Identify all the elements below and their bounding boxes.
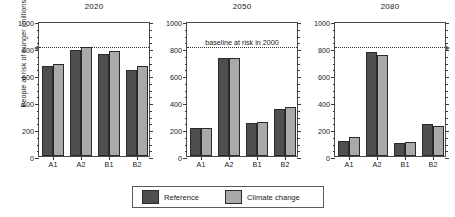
y-tick-label: 400 — [22, 100, 34, 109]
x-tick-label-B2: B2 — [123, 160, 151, 169]
chart-legend: Reference Climate change — [132, 186, 324, 208]
legend-label-climate-change: Climate change — [247, 193, 300, 202]
bar-group-B2 — [271, 23, 299, 156]
legend-swatch-reference — [142, 190, 159, 204]
y-tick-label: 800 — [318, 46, 330, 55]
bar-A1-climate-change — [53, 64, 64, 156]
bar-A2-reference — [70, 50, 81, 156]
bar-B1-reference — [246, 123, 257, 156]
x-tick-label-B2: B2 — [271, 160, 299, 169]
x-tick-label-A2: A2 — [67, 160, 95, 169]
bar-B1-reference — [394, 143, 405, 156]
bar-A1-reference — [42, 66, 53, 156]
chart-figure: People at risk of hunger (millions) 2020… — [0, 0, 455, 217]
y-tick-label: 1000 — [166, 19, 182, 28]
chart-panel-2080: 208002004006008001000A1A2B1B2 — [334, 12, 446, 167]
bar-A1-climate-change — [349, 137, 360, 156]
y-tick-major — [331, 158, 335, 159]
y-tick-label: 800 — [22, 46, 34, 55]
y-tick-label: 1000 — [314, 19, 330, 28]
y-tick-label: 0 — [326, 154, 330, 163]
x-tick-label-A1: A1 — [335, 160, 363, 169]
panel-title: 2020 — [38, 2, 150, 11]
legend-swatch-climate-change — [225, 190, 242, 204]
bar-A2-reference — [218, 58, 229, 156]
x-tick-label-B1: B1 — [243, 160, 271, 169]
y-tick-label: 0 — [30, 154, 34, 163]
panel-title: 2080 — [334, 2, 446, 11]
x-tick-label-B1: B1 — [95, 160, 123, 169]
panel-title: 2050 — [186, 2, 298, 11]
bar-group-B1 — [243, 23, 271, 156]
y-tick-label: 200 — [22, 127, 34, 136]
bar-group-B1 — [391, 23, 419, 156]
bar-A1-climate-change — [201, 128, 212, 156]
x-tick-label-A2: A2 — [363, 160, 391, 169]
y-tick-label: 400 — [170, 100, 182, 109]
y-tick-label: 400 — [318, 100, 330, 109]
legend-label-reference: Reference — [164, 193, 199, 202]
bar-group-A2 — [363, 23, 391, 156]
y-tick-label: 1000 — [18, 19, 34, 28]
bar-group-A2 — [67, 23, 95, 156]
plot-area: 02004006008001000A1A2B1B2 — [334, 22, 446, 157]
bar-group-A1 — [187, 23, 215, 156]
bar-B2-climate-change — [137, 66, 148, 156]
bar-B1-climate-change — [257, 122, 268, 156]
bar-B1-reference — [98, 54, 109, 156]
bar-B2-reference — [274, 109, 285, 156]
bar-A2-climate-change — [229, 58, 240, 156]
y-tick-label: 200 — [318, 127, 330, 136]
chart-panel-2020: 202002004006008001000A1A2B1B2 — [38, 12, 150, 167]
bar-group-B2 — [123, 23, 151, 156]
bar-group-A1 — [39, 23, 67, 156]
chart-panel-2050: 205002004006008001000baseline at risk in… — [186, 12, 298, 167]
bar-B1-climate-change — [405, 142, 416, 156]
bar-A1-reference — [190, 128, 201, 156]
y-tick-label: 0 — [178, 154, 182, 163]
x-tick-label-B2: B2 — [419, 160, 447, 169]
y-tick-major-right — [297, 158, 301, 159]
bar-B1-climate-change — [109, 51, 120, 156]
y-tick-label: 800 — [170, 46, 182, 55]
y-tick-major-right — [149, 158, 153, 159]
bar-A2-climate-change — [377, 55, 388, 156]
y-tick-label: 600 — [170, 73, 182, 82]
bar-group-B2 — [419, 23, 447, 156]
y-tick-major — [183, 158, 187, 159]
bar-A2-reference — [366, 52, 377, 156]
y-tick-label: 600 — [22, 73, 34, 82]
plot-area: 02004006008001000baseline at risk in 200… — [186, 22, 298, 157]
legend-item-reference: Reference — [142, 190, 199, 204]
bar-A2-climate-change — [81, 47, 92, 156]
x-tick-label-A2: A2 — [215, 160, 243, 169]
x-tick-label-A1: A1 — [39, 160, 67, 169]
plot-area: 02004006008001000A1A2B1B2 — [38, 22, 150, 157]
y-tick-major — [35, 158, 39, 159]
y-tick-label: 600 — [318, 73, 330, 82]
bar-B2-climate-change — [285, 107, 296, 156]
bar-group-A2 — [215, 23, 243, 156]
bar-A1-reference — [338, 141, 349, 156]
bar-B2-reference — [422, 124, 433, 156]
legend-item-climate-change: Climate change — [225, 190, 300, 204]
bar-B2-reference — [126, 70, 137, 156]
x-tick-label-A1: A1 — [187, 160, 215, 169]
bar-group-A1 — [335, 23, 363, 156]
bar-group-B1 — [95, 23, 123, 156]
y-tick-label: 200 — [170, 127, 182, 136]
bar-B2-climate-change — [433, 126, 444, 156]
y-tick-major-right — [445, 158, 449, 159]
x-tick-label-B1: B1 — [391, 160, 419, 169]
